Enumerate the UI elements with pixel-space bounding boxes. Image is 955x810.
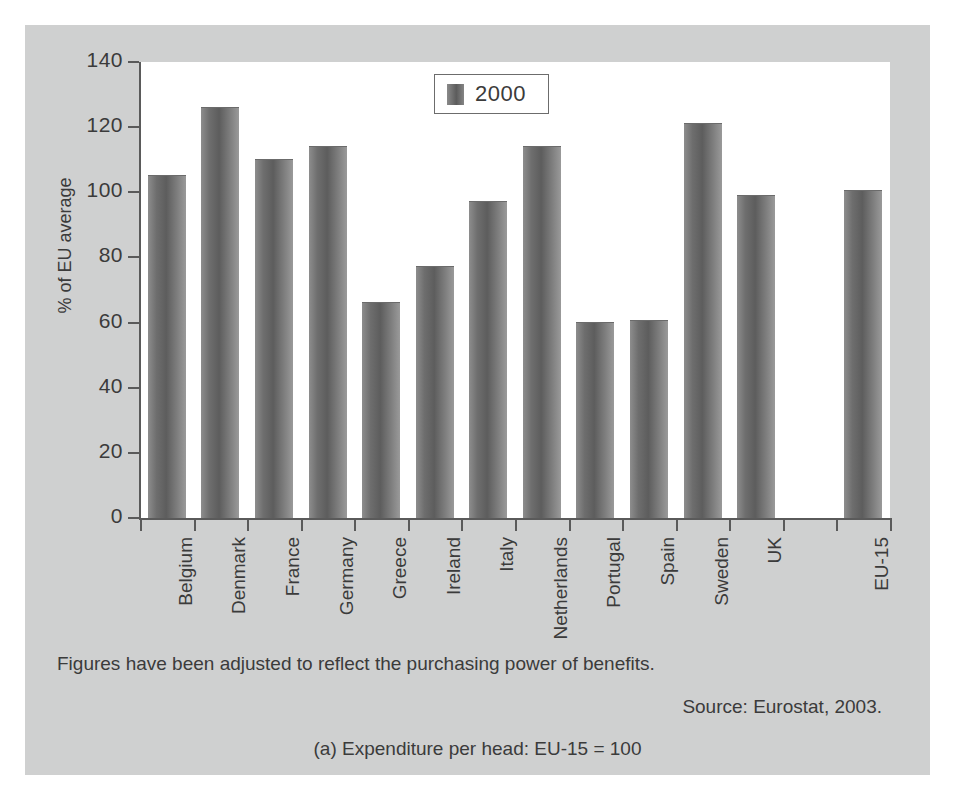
x-label-sweden: Sweden (711, 537, 733, 606)
x-tick-Ireland (408, 519, 410, 531)
x-label-belgium: Belgium (175, 537, 197, 606)
x-tick-EU-15 (836, 519, 838, 531)
legend-swatch-2000 (447, 84, 464, 105)
bar-belgium (148, 175, 186, 518)
y-tick-label-60: 60 (27, 309, 123, 333)
bar-spain (630, 320, 668, 518)
x-label-netherlands: Netherlands (550, 537, 572, 639)
y-tick-label-100: 100 (27, 178, 123, 202)
x-label-ireland: Ireland (443, 537, 465, 595)
x-tick-Netherlands (515, 519, 517, 531)
x-tick-UK (729, 519, 731, 531)
y-tick-0 (128, 517, 139, 519)
y-tick-120 (128, 126, 139, 128)
y-tick-label-140: 140 (27, 48, 123, 72)
x-tick-France (247, 519, 249, 531)
bar-netherlands (523, 146, 561, 518)
y-tick-40 (128, 387, 139, 389)
y-tick-label-120: 120 (27, 113, 123, 137)
bar-ireland (416, 266, 454, 518)
x-tick-Denmark (194, 519, 196, 531)
x-label-greece: Greece (389, 537, 411, 599)
x-label-portugal: Portugal (603, 537, 625, 608)
x-tick-Germany (301, 519, 303, 531)
bar-greece (362, 302, 400, 518)
x-label-uk: UK (764, 537, 786, 563)
chart-source: Source: Eurostat, 2003. (682, 696, 882, 718)
bar-denmark (201, 107, 239, 518)
bar-uk (737, 195, 775, 518)
y-tick-100 (128, 191, 139, 193)
y-tick-label-80: 80 (27, 243, 123, 267)
y-tick-label-0: 0 (27, 504, 123, 528)
legend-label-2000: 2000 (475, 81, 526, 107)
x-label-germany: Germany (336, 537, 358, 615)
x-label-denmark: Denmark (228, 537, 250, 614)
x-tick-Belgium (140, 519, 142, 531)
y-tick-140 (128, 61, 139, 63)
x-tick-blank-12 (783, 519, 785, 531)
x-tick-Portugal (569, 519, 571, 531)
chart-legend: 2000 (434, 74, 549, 114)
x-tick-Sweden (676, 519, 678, 531)
x-label-spain: Spain (657, 537, 679, 586)
y-tick-label-40: 40 (27, 374, 123, 398)
x-tick-Italy (461, 519, 463, 531)
bar-france (255, 159, 293, 518)
x-tick-end (890, 519, 892, 531)
bar-eu-15 (844, 190, 882, 518)
x-tick-Greece (354, 519, 356, 531)
x-label-france: France (282, 537, 304, 596)
y-tick-label-20: 20 (27, 439, 123, 463)
y-tick-60 (128, 322, 139, 324)
bar-germany (309, 146, 347, 518)
figure-panel: % of EU average 020406080100120140 Belgi… (25, 25, 930, 775)
chart-footnote: Figures have been adjusted to reflect th… (57, 653, 655, 675)
bar-sweden (684, 123, 722, 518)
chart-caption: (a) Expenditure per head: EU-15 = 100 (25, 738, 930, 760)
x-label-eu-15: EU-15 (871, 537, 893, 591)
x-tick-Spain (622, 519, 624, 531)
y-tick-20 (128, 452, 139, 454)
y-tick-80 (128, 256, 139, 258)
bar-portugal (576, 322, 614, 518)
bar-italy (469, 201, 507, 518)
x-label-italy: Italy (496, 537, 518, 572)
bars-layer (140, 62, 890, 518)
